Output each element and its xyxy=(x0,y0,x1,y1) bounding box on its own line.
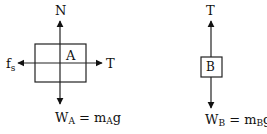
block-a-label: A xyxy=(65,48,76,63)
tension-b-label: T xyxy=(206,3,215,18)
free-body-diagrams: A N fs T WA = mAg T B WB = mBg xyxy=(0,0,267,134)
weight-a-equation: WA = mAg xyxy=(55,110,121,126)
block-a-diagram: A N fs T WA = mAg xyxy=(6,3,121,126)
friction-label: fs xyxy=(6,56,16,73)
weight-b-equation: WB = mBg xyxy=(205,112,267,128)
tension-a-label: T xyxy=(106,56,115,71)
block-b-label: B xyxy=(206,60,215,74)
normal-force-label: N xyxy=(55,3,66,18)
block-b-diagram: T B WB = mBg xyxy=(201,3,267,128)
